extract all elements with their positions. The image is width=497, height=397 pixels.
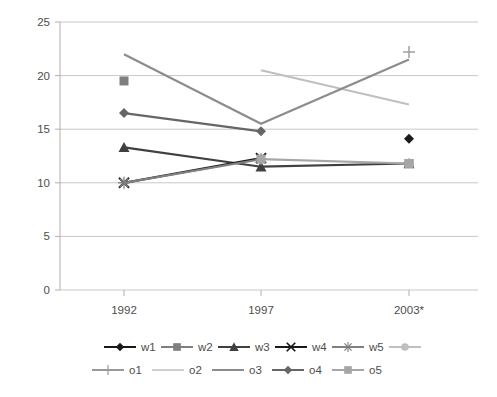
data-point-marker-diamond (119, 108, 129, 118)
series-line-w3 (124, 147, 409, 166)
legend-label: o3 (249, 364, 262, 376)
y-axis-label: 10 (37, 177, 50, 189)
series-w1 (404, 134, 414, 144)
data-point-marker-square (257, 155, 266, 164)
y-axis-label: 5 (44, 230, 50, 242)
data-point-marker-diamond (404, 134, 414, 144)
legend-item-extra[interactable] (389, 343, 421, 351)
legend-svg: w1w2w3w4w5o1o2o3o4o5 (0, 330, 497, 397)
series-line-o3 (124, 54, 409, 124)
x-axis-label: 2003* (394, 304, 425, 316)
series-o3 (124, 54, 409, 124)
y-axis-label: 25 (37, 16, 50, 28)
series-o1 (403, 46, 415, 58)
data-point-marker-diamond (256, 126, 266, 136)
data-point-marker-plus (103, 365, 113, 375)
series-line-o4 (124, 113, 261, 131)
legend-item-w1[interactable]: w1 (104, 341, 156, 353)
data-point-marker-square (405, 159, 414, 168)
legend-label: w1 (140, 341, 156, 353)
legend-item-w2[interactable]: w2 (161, 341, 213, 353)
legend-item-o2[interactable]: o2 (152, 364, 202, 376)
data-point-marker-diamond (116, 343, 125, 352)
legend-label: w4 (311, 341, 327, 353)
legend-item-o4[interactable]: o4 (272, 364, 322, 376)
data-point-marker-star (343, 342, 353, 352)
y-axis-label: 20 (37, 70, 50, 82)
legend-label: o1 (129, 364, 142, 376)
legend-item-w4[interactable]: w4 (275, 341, 327, 353)
x-axis-label: 1992 (111, 304, 137, 316)
legend-label: w5 (368, 341, 384, 353)
y-axis-label: 0 (44, 284, 50, 296)
legend-label: w3 (254, 341, 270, 353)
y-axis-label: 15 (37, 123, 50, 135)
data-point-marker-square (120, 76, 129, 85)
legend-item-w5[interactable]: w5 (332, 341, 384, 353)
data-point-marker-diamond (284, 366, 293, 375)
data-point-marker-square (173, 343, 181, 351)
chart-container: 2520151050199219972003* w1w2w3w4w5o1o2o3… (0, 0, 497, 397)
x-axis-label: 1997 (248, 304, 274, 316)
plot-svg: 2520151050199219972003* (0, 0, 497, 330)
data-point-marker-star (118, 177, 130, 189)
series-line-w5 (124, 159, 261, 183)
plot-area: 2520151050199219972003* (0, 0, 497, 330)
series-o4 (119, 108, 266, 136)
data-point-marker-circle (401, 343, 409, 351)
data-point-marker-plus (403, 46, 415, 58)
legend-label: o5 (369, 364, 382, 376)
legend-item-o1[interactable]: o1 (92, 364, 142, 376)
series-line-o5 (261, 159, 409, 163)
legend-item-o5[interactable]: o5 (332, 364, 382, 376)
legend-label: o4 (309, 364, 322, 376)
chart-legend: w1w2w3w4w5o1o2o3o4o5 (0, 330, 497, 397)
series-w3 (119, 142, 415, 171)
series-w5 (118, 153, 267, 189)
data-point-marker-square (344, 366, 352, 374)
legend-item-w3[interactable]: w3 (218, 341, 270, 353)
legend-item-o3[interactable]: o3 (212, 364, 262, 376)
legend-label: w2 (197, 341, 213, 353)
legend-label: o2 (189, 364, 202, 376)
